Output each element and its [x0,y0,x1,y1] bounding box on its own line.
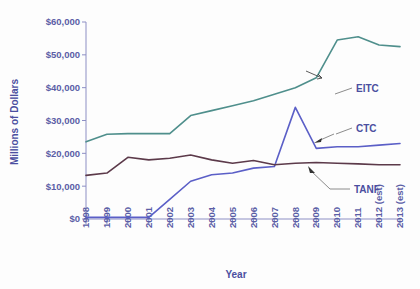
annotation-tanf: TANF [308,166,380,195]
y-tick-label: $10,000 [46,181,80,192]
x-tick-label: 2007 [269,207,280,228]
x-tick-label: 2004 [206,206,217,228]
y-tick-label: $40,000 [46,82,80,93]
eitc-leader-line [335,88,352,94]
ctc-arrowhead [314,138,322,143]
annotation-eitc: EITC [306,71,379,94]
y-tick-label: $30,000 [46,115,80,126]
x-tick-label: 2013 (est) [394,184,405,228]
tanf-leader-line [310,170,350,189]
series-line-eitc [86,37,400,142]
eitc-label: EITC [356,83,379,94]
x-tick-label: 2005 [227,206,238,228]
x-tick-label: 2002 [164,207,175,228]
series-lines [86,37,400,218]
y-tick-label: $0 [69,213,80,224]
y-axis-tick-labels: $0$10,000$20,000$30,000$40,000$50,000$60… [46,16,80,224]
y-tick-label: $20,000 [46,148,80,159]
line-chart-canvas: $0$10,000$20,000$30,000$40,000$50,000$60… [0,0,420,289]
ctc-leader-line [336,128,352,134]
y-tick-label: $50,000 [46,49,80,60]
x-tick-label: 2009 [310,207,321,228]
y-axis-tick-marks [82,22,86,219]
tanf-label: TANF [354,184,380,195]
x-tick-label: 2011 [352,207,363,228]
x-tick-label: 2008 [290,207,301,228]
chart-figure: $0$10,000$20,000$30,000$40,000$50,000$60… [0,0,420,289]
x-axis-title: Year [225,269,246,280]
x-tick-label: 2006 [248,207,259,228]
tanf-arrowhead [308,166,315,173]
series-line-tanf [86,155,400,175]
annotation-ctc: CTC [314,123,377,143]
x-tick-label: 2010 [331,207,342,228]
y-tick-label: $60,000 [46,16,80,27]
x-tick-label: 2003 [185,207,196,228]
ctc-label: CTC [356,123,377,134]
y-axis-title: Millions of Dollars [9,79,20,166]
